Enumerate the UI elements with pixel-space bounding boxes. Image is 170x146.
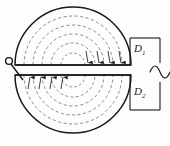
dashed-field-arcs-upper — [24, 16, 122, 65]
dashed-arc-lower-4 — [51, 75, 95, 97]
current-direction-arrow-icon — [108, 51, 110, 63]
disc-ac-circuit-diagram: D 1 D 2 — [0, 0, 170, 146]
dashed-arc-upper-2 — [33, 25, 113, 65]
current-direction-arrow-icon — [28, 77, 30, 89]
dashed-arc-upper-1 — [24, 16, 122, 65]
upper-disc-label-subscript: 1 — [142, 49, 146, 57]
disc-labels: D 1 D 2 — [133, 42, 146, 100]
upper-disc-outline — [15, 7, 131, 65]
lower-disc-label: D — [133, 85, 142, 97]
upper-disc-label: D — [133, 42, 142, 54]
dashed-arc-lower-1 — [24, 75, 122, 124]
upper-disc-d1[interactable] — [15, 7, 131, 65]
current-direction-arrow-icon — [97, 51, 99, 63]
dashed-arc-lower-2 — [33, 75, 113, 115]
current-direction-arrow-icon — [50, 77, 52, 89]
dashed-arc-lower-5 — [61, 75, 85, 87]
dashed-field-arcs-lower — [24, 75, 122, 124]
terminal-lead-line — [11, 64, 23, 80]
current-direction-arrow-icon — [61, 77, 63, 89]
current-direction-arrow-icon — [39, 77, 41, 89]
terminal-node-icon — [6, 58, 13, 65]
lower-disc-d2[interactable] — [15, 75, 131, 133]
dashed-arc-upper-5 — [61, 53, 85, 65]
lower-disc-outline — [15, 75, 131, 133]
dashed-field-arcs-group — [24, 16, 122, 124]
figure-container: D 1 D 2 — [0, 0, 170, 146]
current-direction-arrow-icon — [86, 51, 88, 63]
lower-disc-label-subscript: 2 — [142, 92, 146, 100]
dashed-arc-upper-4 — [51, 43, 95, 65]
ac-source[interactable] — [150, 66, 170, 78]
current-arrows-lower-group — [28, 77, 63, 89]
ac-source-sine-icon — [150, 66, 170, 78]
